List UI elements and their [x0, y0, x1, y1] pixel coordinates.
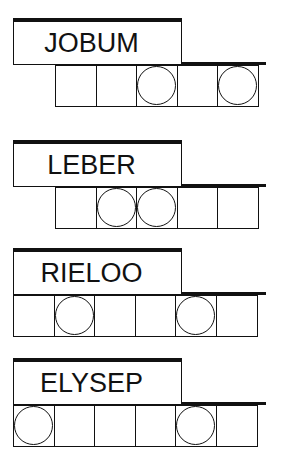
- answer-slots: [13, 405, 258, 447]
- answer-slot-6[interactable]: [216, 295, 258, 337]
- answer-slot-4[interactable]: [135, 295, 177, 337]
- scrambled-word: LEBER: [47, 150, 136, 181]
- circle-marker-icon: [176, 406, 215, 445]
- answer-slot-3-circled[interactable]: [136, 65, 178, 107]
- answer-slot-6[interactable]: [216, 405, 258, 447]
- answer-slot-1-circled[interactable]: [13, 405, 55, 447]
- answer-slot-3[interactable]: [94, 405, 136, 447]
- circle-marker-icon: [55, 296, 94, 335]
- answer-slot-1[interactable]: [13, 295, 55, 337]
- answer-slot-2[interactable]: [96, 65, 138, 107]
- circle-marker-icon: [218, 66, 257, 105]
- answer-slot-3-circled[interactable]: [136, 187, 178, 229]
- answer-slots: [55, 65, 259, 107]
- answer-slot-4[interactable]: [177, 187, 219, 229]
- answer-slot-3[interactable]: [94, 295, 136, 337]
- answer-slot-5[interactable]: [217, 187, 259, 229]
- answer-slot-5-circled[interactable]: [217, 65, 259, 107]
- answer-slot-4[interactable]: [177, 65, 219, 107]
- scrambled-word: ELYSEP: [40, 368, 143, 399]
- answer-slot-1[interactable]: [55, 65, 97, 107]
- circle-marker-icon: [176, 296, 215, 335]
- circle-marker-icon: [97, 188, 136, 227]
- scrambled-word: RIELOO: [40, 258, 142, 289]
- circle-marker-icon: [137, 66, 176, 105]
- scrambled-word-box: LEBER: [13, 140, 182, 187]
- scrambled-word-box: ELYSEP: [13, 358, 182, 405]
- answer-slot-5-circled[interactable]: [175, 295, 217, 337]
- scrambled-word-box: RIELOO: [13, 248, 182, 295]
- answer-slot-5-circled[interactable]: [175, 405, 217, 447]
- answer-slots: [13, 295, 258, 337]
- answer-slot-1[interactable]: [55, 187, 97, 229]
- answer-slots: [55, 187, 259, 229]
- answer-slot-2-circled[interactable]: [96, 187, 138, 229]
- answer-slot-4[interactable]: [135, 405, 177, 447]
- answer-slot-2-circled[interactable]: [54, 295, 96, 337]
- circle-marker-icon: [137, 188, 176, 227]
- scrambled-word-box: JOBUM: [13, 18, 182, 65]
- circle-marker-icon: [14, 406, 53, 445]
- answer-slot-2[interactable]: [54, 405, 96, 447]
- scrambled-word: JOBUM: [44, 28, 139, 59]
